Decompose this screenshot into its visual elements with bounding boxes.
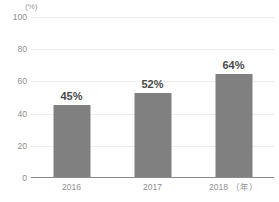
plot-area: 100806040200 45%201652%201764%2018（年） — [31, 17, 274, 178]
bar-2018[interactable] — [215, 74, 252, 177]
bar-value-label-2017: 52% — [141, 78, 163, 90]
y-tick-label: 20 — [18, 141, 27, 150]
y-tick-label: 0 — [22, 174, 27, 183]
bar-2017[interactable] — [134, 93, 171, 177]
bar-2016[interactable] — [53, 105, 90, 177]
bar-group: 52%2017 — [112, 16, 193, 177]
x-tick-label-2016: 2016 — [62, 182, 81, 192]
x-tick-label-2017: 2017 — [143, 182, 162, 192]
bar-group: 64%2018（年） — [193, 16, 274, 177]
y-tick-label: 100 — [13, 13, 27, 22]
x-tick-category: 2016 — [62, 182, 81, 192]
x-tick-category: 2018 — [209, 182, 228, 192]
bar-value-label-2016: 45% — [60, 90, 82, 102]
y-tick-label: 60 — [18, 77, 27, 86]
y-tick-label: 40 — [18, 109, 27, 118]
chart-title: Sustainable Products — [0, 0, 279, 3]
y-tick-label: 80 — [18, 45, 27, 54]
x-axis-line — [31, 177, 274, 178]
x-tick-category: 2017 — [143, 182, 162, 192]
bar-chart-figure: Sustainable Products (%) 100806040200 45… — [0, 0, 279, 202]
bar-group: 45%2016 — [31, 16, 112, 177]
x-axis-unit-label: （年） — [231, 182, 258, 192]
x-tick-label-2018: 2018（年） — [209, 182, 258, 192]
y-axis-unit-label: (%) — [25, 2, 37, 11]
bar-value-label-2018: 64% — [222, 59, 244, 71]
